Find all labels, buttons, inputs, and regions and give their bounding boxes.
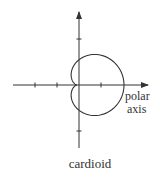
cardioid-diagram: polar axis cardioid — [0, 0, 160, 177]
figure-caption: cardioid — [69, 156, 112, 171]
polar-axis-label-line2: axis — [127, 102, 147, 116]
polar-axis-label-line1: polar — [125, 89, 150, 103]
